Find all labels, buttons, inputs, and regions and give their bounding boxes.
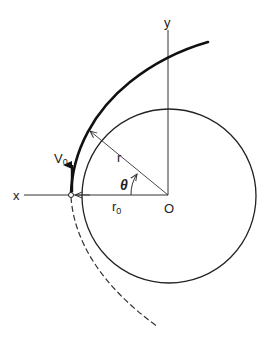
angle-arc: [131, 174, 137, 195]
velocity-label: V0: [54, 151, 68, 167]
radius-line: [90, 131, 168, 195]
radius-label: r: [117, 150, 122, 165]
x-axis-label: x: [13, 188, 20, 203]
reference-circle: [82, 109, 256, 283]
y-axis-label: y: [164, 15, 171, 30]
initial-radius-sub: 0: [116, 206, 121, 216]
velocity-sub: 0: [63, 157, 68, 167]
angle-label: θ: [120, 177, 128, 193]
origin-label: O: [164, 201, 174, 216]
velocity-v: V: [54, 151, 63, 166]
orbit-diagram: y x O r r0 θ V0: [0, 0, 271, 340]
initial-radius-label: r0: [112, 199, 121, 216]
initial-point: [69, 193, 74, 198]
